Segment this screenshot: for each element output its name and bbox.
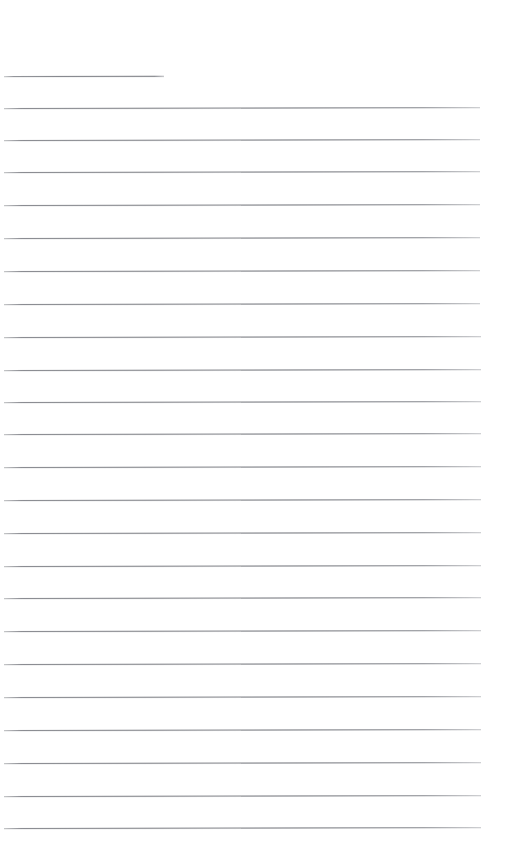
scanned-page <box>0 0 509 864</box>
ruled-line <box>4 401 481 403</box>
ruled-line <box>4 171 480 173</box>
ruled-line <box>4 827 481 829</box>
ruled-line <box>4 270 480 272</box>
ruled-line <box>4 663 481 665</box>
ruled-line <box>4 565 481 567</box>
ruled-line <box>4 336 481 338</box>
ruled-line <box>4 597 481 599</box>
ruled-line <box>4 729 481 731</box>
ruled-line <box>4 466 481 468</box>
ruled-line <box>4 433 481 435</box>
ruled-line <box>4 303 480 305</box>
ruled-line-short <box>4 76 164 77</box>
ruled-line <box>4 696 481 698</box>
ruled-line <box>4 795 481 797</box>
ruled-line <box>4 107 480 109</box>
ruled-line <box>4 499 481 501</box>
ruled-line <box>4 762 481 764</box>
ruled-line <box>4 237 480 239</box>
ruled-line <box>4 139 480 141</box>
ruled-line <box>4 630 481 632</box>
ruled-line <box>4 204 480 206</box>
ruled-line <box>4 369 481 371</box>
ruled-line <box>4 532 481 534</box>
